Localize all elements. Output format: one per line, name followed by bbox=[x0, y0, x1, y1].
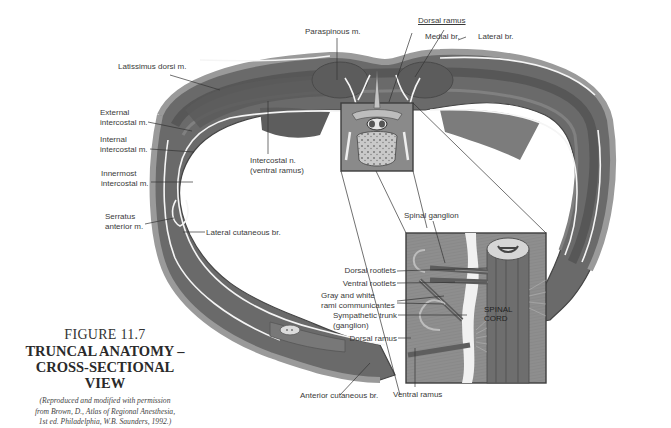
label-line: Gray and white bbox=[321, 291, 395, 301]
label-rami-communicantes: Gray and white rami communicantes bbox=[321, 291, 395, 310]
label-dorsal-ramus-inset: Dorsal ramus bbox=[349, 334, 397, 344]
label-line: CORD bbox=[484, 314, 512, 323]
label-intercostal-nerve: Intercostal n. (ventral ramus) bbox=[250, 156, 304, 175]
label-line: SPINAL bbox=[484, 305, 512, 314]
label-innermost-intercostal: Innermost intercostal m. bbox=[101, 169, 149, 188]
label-paraspinous-muscle: Paraspinous m. bbox=[305, 27, 361, 37]
label-line: (ganglion) bbox=[333, 321, 397, 331]
label-line: intercostal m. bbox=[100, 145, 148, 155]
figure-title-line-2: CROSS-SECTIONAL VIEW bbox=[15, 359, 195, 391]
credit-line: from Brown, D., Atlas of Regional Anesth… bbox=[15, 407, 195, 418]
label-line: (ventral ramus) bbox=[250, 166, 304, 176]
label-line: intercostal m. bbox=[100, 118, 148, 128]
label-line: External bbox=[100, 108, 148, 118]
label-line: anterior m. bbox=[105, 222, 143, 232]
label-spinal-cord: SPINAL CORD bbox=[484, 305, 512, 323]
label-spinal-ganglion: Spinal ganglion bbox=[404, 211, 459, 221]
label-lateral-branch: Lateral br. bbox=[478, 32, 514, 42]
label-dorsal-ramus-top: Dorsal ramus bbox=[418, 16, 466, 26]
label-internal-intercostal: Internal intercostal m. bbox=[100, 135, 148, 154]
figure-title-line-1: TRUNCAL ANATOMY – bbox=[15, 343, 195, 359]
label-line: Sympathetic trunk bbox=[333, 311, 397, 321]
spinal-nerve-detail-inset bbox=[406, 233, 546, 383]
figure-number: FIGURE 11.7 bbox=[15, 327, 195, 343]
label-line: Internal bbox=[100, 135, 148, 145]
label-dorsal-rootlets: Dorsal rootlets bbox=[344, 266, 396, 276]
label-ventral-ramus: Ventral ramus bbox=[393, 390, 442, 400]
label-medial-branch: Medial br. bbox=[425, 32, 460, 42]
label-ventral-rootlets: Ventral rootlets bbox=[343, 279, 396, 289]
label-external-intercostal: External intercostal m. bbox=[100, 108, 148, 127]
label-serratus-anterior: Serratus anterior m. bbox=[105, 212, 143, 231]
figure-caption: FIGURE 11.7 TRUNCAL ANATOMY – CROSS-SECT… bbox=[15, 327, 195, 428]
label-latissimus-dorsi: Latissimus dorsi m. bbox=[118, 62, 186, 72]
label-lateral-cutaneous-branch: Lateral cutaneous br. bbox=[206, 228, 281, 238]
credit-line: 1st ed. Philadelphia, W.B. Saunders, 199… bbox=[15, 417, 195, 428]
figure-credit: (Reproduced and modified with permission… bbox=[15, 396, 195, 428]
label-line: Serratus bbox=[105, 212, 143, 222]
label-line: Intercostal n. bbox=[250, 156, 304, 166]
credit-line: (Reproduced and modified with permission bbox=[15, 396, 195, 407]
label-sympathetic-trunk: Sympathetic trunk (ganglion) bbox=[333, 311, 397, 330]
label-line: rami communicantes bbox=[321, 301, 395, 311]
label-anterior-cutaneous-branch: Anterior cutaneous br. bbox=[300, 391, 378, 401]
label-line: intercostal m. bbox=[101, 179, 149, 189]
label-line: Innermost bbox=[101, 169, 149, 179]
